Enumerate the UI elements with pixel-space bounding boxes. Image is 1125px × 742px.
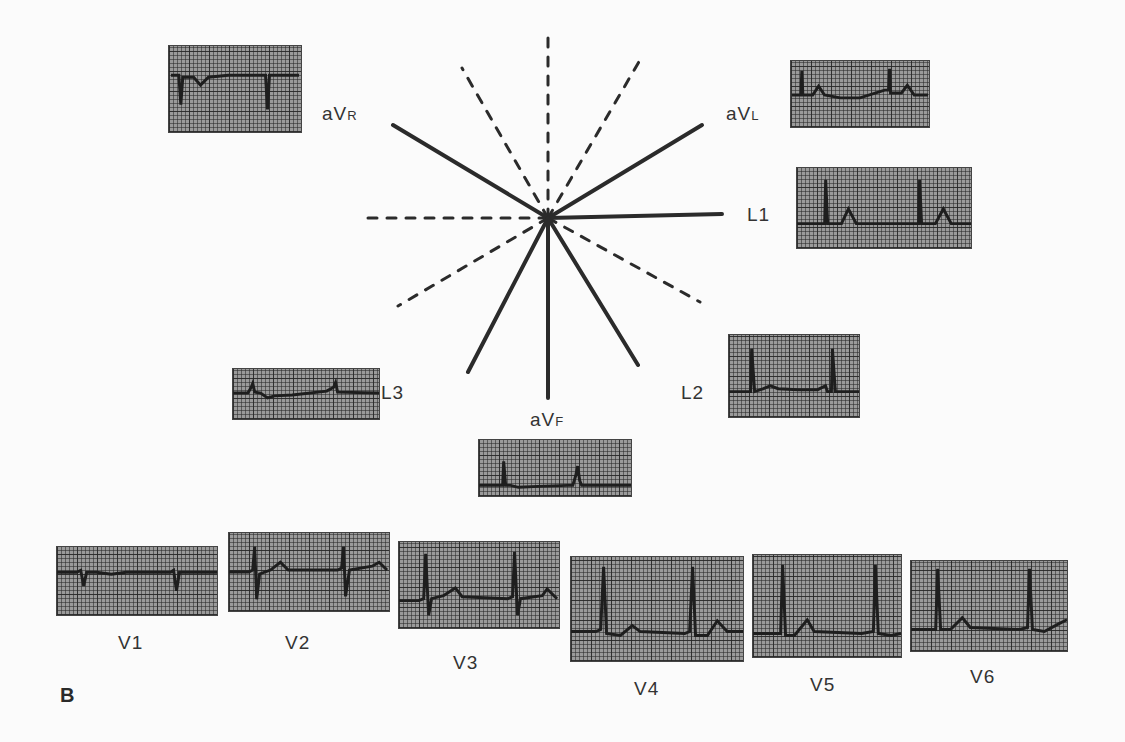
panel-label: B	[60, 684, 74, 707]
lead-label-avf: aVF	[530, 409, 564, 431]
lead-label-v3: V3	[453, 652, 478, 674]
solid-axes	[393, 125, 722, 398]
lead-label-v1: V1	[118, 632, 143, 654]
lead-label-l3: L3	[381, 382, 404, 404]
ecg-tile-v1	[56, 546, 218, 616]
lead-label-v6: V6	[970, 666, 995, 688]
lead-label-avr: aVR	[322, 103, 358, 125]
lead-label-l2: L2	[681, 382, 704, 404]
ecg-tile-l3	[232, 368, 380, 420]
ecg-tile-avr	[168, 45, 302, 133]
ecg-tile-v3	[398, 541, 560, 629]
ecg-tile-l2	[728, 334, 860, 418]
ecg-tile-v4	[570, 556, 744, 662]
lead-label-v4: V4	[634, 678, 659, 700]
lead-label-avl: aVL	[726, 103, 759, 125]
ecg-tile-l1	[796, 167, 972, 249]
ecg-tile-avl	[790, 60, 930, 128]
lead-label-v2: V2	[285, 632, 310, 654]
ecg-figure: aVR aVL L1 L2 L3 aVF V1 V2 V3 V4 V5	[0, 0, 1125, 742]
ecg-tile-v2	[228, 532, 390, 612]
ecg-tile-avf	[478, 439, 632, 497]
lead-label-v5: V5	[810, 674, 835, 696]
dashed-axes	[368, 35, 700, 306]
ecg-tile-v5	[752, 554, 902, 658]
lead-label-l1: L1	[747, 204, 770, 226]
ecg-tile-v6	[910, 560, 1068, 652]
